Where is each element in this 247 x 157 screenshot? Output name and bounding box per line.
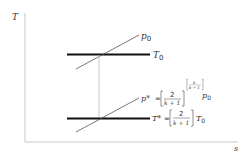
svg-text:T0: T0 — [196, 114, 205, 124]
svg-text:p*: p* — [141, 94, 150, 103]
svg-text:2: 2 — [170, 91, 174, 99]
svg-text:2: 2 — [179, 110, 183, 118]
ts-diagram: T s p0 T0 p* = 2 k + 1 k k − 1 p0 T* = 2… — [0, 0, 247, 157]
upper-isotherm-label: T0 — [153, 50, 163, 62]
svg-text:k + 1: k + 1 — [173, 119, 189, 126]
critical-pressure-equation: p* = 2 k + 1 k k − 1 p0 — [141, 79, 211, 106]
upper-isobar-label: p0 — [141, 31, 151, 43]
svg-text:T*: T* — [152, 114, 161, 123]
upper-isobar-line — [76, 35, 139, 69]
lower-isobar-line — [76, 98, 139, 132]
svg-text:=: = — [164, 115, 170, 123]
svg-text:k + 1: k + 1 — [164, 99, 180, 106]
critical-temperature-equation: T* = 2 k + 1 T0 — [152, 110, 205, 126]
x-axis-label: s — [234, 144, 238, 153]
y-axis-label: T — [12, 12, 19, 22]
svg-text:p0: p0 — [202, 91, 211, 101]
svg-text:=: = — [155, 95, 161, 103]
svg-text:k − 1: k − 1 — [189, 85, 200, 90]
